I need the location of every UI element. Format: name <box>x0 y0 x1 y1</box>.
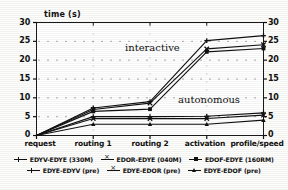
legend-marker-plus-icon-2 <box>27 170 40 171</box>
chart-figure: time (s) 30 25 20 15 10 5 0 30 25 20 15 … <box>0 0 288 190</box>
legend-marker-cross-icon <box>101 159 114 160</box>
legend-label-0: EDYV-EDYE (330M) <box>30 156 93 163</box>
legend-label-3: EDYE-EDYV (pre) <box>43 167 99 174</box>
legend-item-4[interactable]: EDYE-EDOR (pre) <box>107 167 180 174</box>
legend-label-5: EDYE-EDOF (pre) <box>204 167 261 174</box>
legend-label-1: EDOR-EDYE (040M) <box>117 156 182 163</box>
legend-item-5[interactable]: EDYE-EDOF (pre) <box>188 167 261 174</box>
legend-marker-triangle-icon <box>188 170 201 171</box>
legend-item-1[interactable]: EDOR-EDYE (040M) <box>101 156 181 163</box>
legend-label-4: EDYE-EDOR (pre) <box>123 167 181 174</box>
legend-row-2: EDYE-EDYV (pre) EDYE-EDOR (pre) EDYE-EDO… <box>0 165 288 176</box>
legend-marker-square-icon <box>189 159 202 160</box>
legend-item-0[interactable]: EDYV-EDYE (330M) <box>14 156 93 163</box>
legend-item-3[interactable]: EDYE-EDYV (pre) <box>27 167 99 174</box>
legend-marker-cross-icon-2 <box>107 170 120 171</box>
legend-item-2[interactable]: EDOF-EDYE (160RM) <box>189 156 273 163</box>
chart-legend: EDYV-EDYE (330M) EDOR-EDYE (040M) EDOF-E… <box>0 154 288 176</box>
legend-row-1: EDYV-EDYE (330M) EDOR-EDYE (040M) EDOF-E… <box>0 154 288 165</box>
legend-label-2: EDOF-EDYE (160RM) <box>205 156 274 163</box>
legend-marker-plus-icon <box>14 159 27 160</box>
